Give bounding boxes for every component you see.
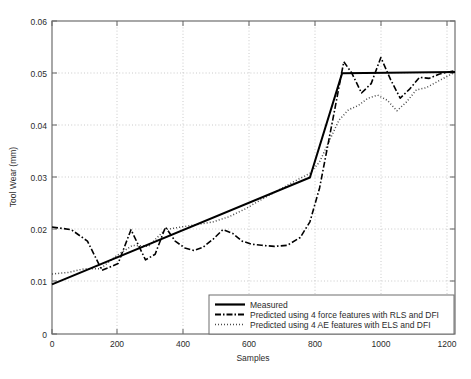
x-tick-label: 0 <box>50 339 55 349</box>
y-tick-label: 0.05 <box>30 69 47 79</box>
legend-label-ae-pred: Predicted using 4 AE features with ELS a… <box>250 320 431 330</box>
y-tick-label: 0.04 <box>30 121 47 131</box>
y-axis-title: Tool Wear (mm) <box>8 147 18 207</box>
y-tick-label: 0.01 <box>30 277 47 287</box>
y-tick-label: 0 <box>42 330 47 340</box>
legend-label-force-pred: Predicted using 4 force features with RL… <box>250 310 439 320</box>
tool-wear-chart: 0.06 0.05 0.04 0.03 0.02 0.01 0 0 200 40… <box>0 0 471 379</box>
x-axis-title: Samples <box>236 353 269 363</box>
y-tick-label: 0.02 <box>30 225 47 235</box>
legend: Measured Predicted using 4 force feature… <box>209 295 454 334</box>
y-tick-label: 0.03 <box>30 173 47 183</box>
x-tick-label: 800 <box>308 339 322 349</box>
legend-label-measured: Measured <box>250 300 288 310</box>
x-tick-label: 1000 <box>372 339 391 349</box>
x-tick-label: 200 <box>110 339 124 349</box>
y-tick-label: 0.06 <box>30 17 47 27</box>
x-tick-label: 600 <box>242 339 256 349</box>
x-tick-label: 1200 <box>438 339 457 349</box>
x-tick-label: 400 <box>176 339 190 349</box>
